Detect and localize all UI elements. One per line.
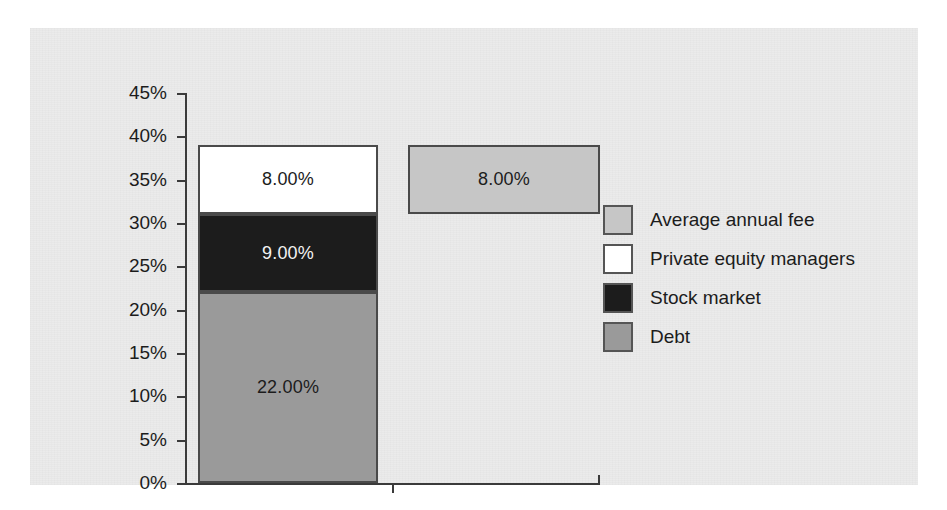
y-tick-15: 15%: [177, 353, 185, 355]
y-tick-20: 20%: [177, 310, 185, 312]
y-tick-35: 35%: [177, 180, 185, 182]
legend-label-average-annual-fee: Average annual fee: [650, 209, 814, 231]
y-tick-label-35: 35%: [129, 169, 167, 191]
chart-legend: Average annual fee Private equity manage…: [603, 200, 933, 356]
y-tick-label-45: 45%: [129, 82, 167, 104]
y-tick-label-10: 10%: [129, 385, 167, 407]
bar-average-annual-fee[interactable]: 8.00%: [408, 145, 600, 214]
y-tick-label-20: 20%: [129, 299, 167, 321]
y-tick-label-30: 30%: [129, 212, 167, 234]
bar-label-stock-market: 9.00%: [262, 243, 314, 264]
legend-swatch-average-annual-fee: [603, 205, 633, 235]
legend-item-debt[interactable]: Debt: [603, 317, 933, 356]
chart-screenshot: 45% 40% 35% 30% 25% 20% 15% 10%: [0, 0, 947, 510]
y-tick-0: 0%: [177, 483, 185, 485]
legend-item-average-annual-fee[interactable]: Average annual fee: [603, 200, 933, 239]
y-tick-5: 5%: [177, 440, 185, 442]
x-axis-left-cap: [185, 475, 187, 484]
bar-segment-private-equity[interactable]: 8.00%: [198, 145, 378, 214]
y-tick-25: 25%: [177, 266, 185, 268]
y-tick-label-0: 0%: [140, 472, 167, 494]
bar-label-private-equity: 8.00%: [262, 169, 314, 190]
plot-area: 45% 40% 35% 30% 25% 20% 15% 10%: [185, 93, 600, 483]
legend-label-private-equity-managers: Private equity managers: [650, 248, 855, 270]
bar-segment-debt[interactable]: 22.00%: [198, 292, 378, 483]
bar-segment-stock-market[interactable]: 9.00%: [198, 214, 378, 292]
y-tick-10: 10%: [177, 396, 185, 398]
y-tick-label-5: 5%: [140, 429, 167, 451]
y-tick-label-25: 25%: [129, 255, 167, 277]
y-tick-30: 30%: [177, 223, 185, 225]
x-axis-right-cap: [598, 475, 600, 484]
legend-item-private-equity-managers[interactable]: Private equity managers: [603, 239, 933, 278]
legend-label-debt: Debt: [650, 326, 690, 348]
legend-swatch-stock-market: [603, 283, 633, 313]
legend-swatch-private-equity-managers: [603, 244, 633, 274]
x-tick-category-separator: [392, 483, 394, 493]
legend-swatch-debt: [603, 322, 633, 352]
bar-label-debt: 22.00%: [257, 377, 319, 398]
legend-label-stock-market: Stock market: [650, 287, 761, 309]
y-tick-45: 45%: [177, 93, 185, 95]
chart-panel: 45% 40% 35% 30% 25% 20% 15% 10%: [30, 28, 918, 485]
y-tick-label-40: 40%: [129, 125, 167, 147]
bar-label-average-annual-fee: 8.00%: [478, 169, 530, 190]
legend-item-stock-market[interactable]: Stock market: [603, 278, 933, 317]
y-axis-line: [185, 93, 187, 483]
y-tick-label-15: 15%: [129, 342, 167, 364]
y-tick-40: 40%: [177, 136, 185, 138]
